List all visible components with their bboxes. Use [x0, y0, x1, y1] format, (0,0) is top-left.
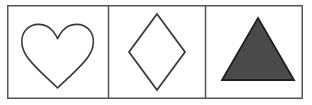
cell-triangle[interactable] [207, 6, 303, 98]
shape-comparison-panel [0, 0, 312, 105]
cell-diamond[interactable] [110, 6, 205, 98]
cell-heart-hitbox[interactable] [8, 6, 108, 98]
cell-diamond-hitbox[interactable] [110, 6, 205, 98]
cell-heart[interactable] [8, 6, 108, 98]
shape-panel-canvas [0, 0, 312, 105]
